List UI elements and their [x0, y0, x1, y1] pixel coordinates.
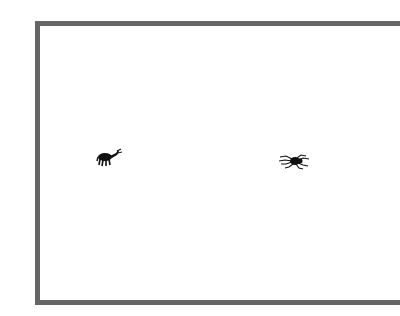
spider-icon: spider [279, 152, 311, 170]
frame-border [35, 21, 400, 305]
insect-icon: ant-like insect [96, 146, 124, 168]
